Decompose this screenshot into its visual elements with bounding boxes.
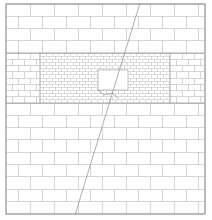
window-opening [98, 70, 128, 90]
diagram-canvas: Masonry wall mesh with central opening a… [0, 0, 212, 220]
wall-frame [6, 4, 205, 214]
masonry-wall-diagram [0, 0, 212, 220]
